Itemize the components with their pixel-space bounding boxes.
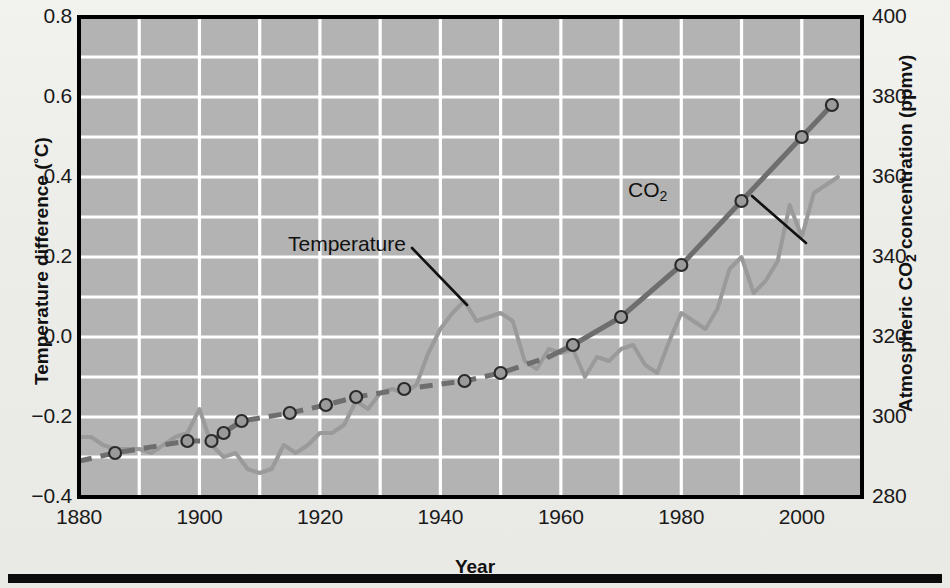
figure-container: −0.4−0.20.00.20.40.60.828030032034036038… — [0, 0, 950, 588]
series-marker-co2 — [109, 447, 121, 459]
y-tick-left-5: 0.6 — [0, 84, 72, 108]
y-axis-title-right-subscript: 2 — [903, 254, 919, 262]
y-axis-title-left: Temperature difference (˚C) — [31, 111, 53, 411]
y-axis-title-right-tail: concentration (ppmv) — [895, 55, 916, 255]
series-marker-co2 — [236, 415, 248, 427]
chart-plot-area — [0, 0, 950, 588]
y-axis-title-right-main: Atmospheric CO — [895, 262, 916, 412]
series-marker-co2 — [206, 435, 218, 447]
series-marker-co2 — [615, 311, 627, 323]
y-tick-right-6: 400 — [872, 4, 942, 28]
series-marker-co2 — [459, 375, 471, 387]
x-tick-2: 1920 — [275, 505, 365, 529]
series-marker-co2 — [736, 195, 748, 207]
x-tick-6: 2000 — [757, 505, 847, 529]
series-marker-co2 — [284, 407, 296, 419]
x-tick-1: 1900 — [154, 505, 244, 529]
y-tick-right-0: 280 — [872, 484, 942, 508]
x-tick-0: 1880 — [34, 505, 124, 529]
series-marker-co2 — [826, 99, 838, 111]
co2-series-label-main: CO — [628, 178, 660, 201]
series-marker-co2 — [398, 383, 410, 395]
y-tick-left-6: 0.8 — [0, 4, 72, 28]
x-tick-3: 1940 — [395, 505, 485, 529]
series-marker-co2 — [320, 399, 332, 411]
series-marker-co2 — [218, 427, 230, 439]
series-marker-co2 — [796, 131, 808, 143]
co2-series-label-subscript: 2 — [660, 188, 668, 204]
co2-series-label: CO2 — [628, 178, 667, 204]
y-axis-title-right: Atmospheric CO2 concentration (ppmv) — [895, 112, 919, 412]
series-marker-co2 — [181, 435, 193, 447]
temperature-series-label: Temperature — [288, 232, 406, 256]
series-marker-co2 — [495, 367, 507, 379]
series-marker-co2 — [675, 259, 687, 271]
x-tick-4: 1960 — [516, 505, 606, 529]
series-marker-co2 — [567, 339, 579, 351]
bottom-divider-rule — [8, 574, 942, 583]
series-marker-co2 — [350, 391, 362, 403]
x-tick-5: 1980 — [636, 505, 726, 529]
